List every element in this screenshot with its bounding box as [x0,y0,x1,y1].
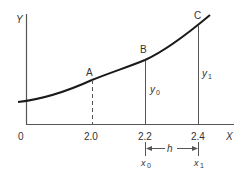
interpolation-diagram: Y X 0 2.0 2.2 2.4 A B C y 0 y 1 h x 0 x … [0,0,248,174]
svg-text:1: 1 [200,162,204,169]
tick-label-2-4: 2.4 [191,131,205,142]
arrow-left-icon [146,146,152,151]
interval-end-label-x1: x 1 [193,158,204,169]
interval-start-label-x0: x 0 [140,158,151,169]
tick-label-2-0: 2.0 [84,131,98,142]
svg-text:0: 0 [156,89,160,96]
x-axis-label: X [225,131,233,142]
svg-text:x: x [193,158,199,168]
ordinate-label-y0: y 0 [149,84,160,96]
svg-text:0: 0 [147,162,151,169]
function-curve [18,15,210,102]
interval-h-dimension: h [146,142,199,156]
tick-label-2-2: 2.2 [138,131,152,142]
svg-text:1: 1 [208,73,212,80]
svg-text:y: y [149,84,156,95]
point-label-a: A [86,67,93,78]
y-axis-label: Y [16,14,24,25]
interval-label-h: h [167,143,173,154]
point-label-b: B [140,44,147,55]
origin-label: 0 [18,131,24,142]
svg-text:y: y [201,68,208,79]
arrow-right-icon [192,146,198,151]
ordinate-label-y1: y 1 [201,68,212,80]
svg-text:x: x [140,158,146,168]
point-label-c: C [194,10,201,21]
